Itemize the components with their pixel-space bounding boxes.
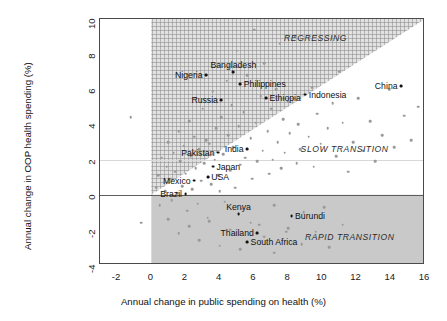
data-point bbox=[205, 139, 208, 142]
point-label: Philippines bbox=[244, 80, 286, 89]
data-point bbox=[254, 121, 257, 124]
data-point bbox=[198, 239, 201, 242]
point-label: China bbox=[375, 81, 398, 90]
data-point bbox=[208, 142, 211, 145]
data-point bbox=[208, 220, 211, 223]
point-label: South Africa bbox=[251, 238, 298, 247]
data-point-highlighted bbox=[239, 83, 242, 86]
data-point-highlighted bbox=[193, 179, 196, 182]
x-tick-label: 8 bbox=[274, 271, 300, 282]
data-point bbox=[280, 167, 283, 170]
data-point bbox=[159, 204, 162, 207]
data-point bbox=[342, 223, 345, 226]
data-point-highlighted bbox=[290, 214, 293, 217]
data-point bbox=[171, 199, 174, 202]
data-point bbox=[326, 127, 329, 130]
data-point bbox=[253, 28, 256, 31]
data-point-highlighted bbox=[265, 97, 268, 100]
data-point bbox=[277, 141, 280, 144]
point-label: Bangladesh bbox=[210, 60, 256, 69]
x-tick-label: 4 bbox=[206, 271, 232, 282]
zone-label: REGRESSING bbox=[284, 33, 347, 43]
data-point bbox=[249, 137, 252, 140]
data-point bbox=[313, 165, 316, 168]
data-point bbox=[295, 162, 298, 165]
y-tick bbox=[99, 54, 100, 55]
data-point bbox=[157, 174, 160, 177]
data-point bbox=[328, 246, 331, 249]
data-point bbox=[297, 123, 300, 126]
point-label: Kenya bbox=[226, 203, 251, 212]
data-point bbox=[338, 70, 341, 73]
data-point bbox=[273, 251, 276, 254]
y-tick-label: -4 bbox=[86, 265, 97, 287]
x-tick-label: -2 bbox=[103, 271, 129, 282]
data-point bbox=[201, 107, 204, 110]
data-point bbox=[210, 183, 213, 186]
data-point bbox=[268, 172, 271, 175]
data-point bbox=[212, 90, 215, 93]
data-point bbox=[301, 243, 304, 246]
data-point bbox=[256, 160, 259, 163]
data-point bbox=[410, 139, 413, 142]
point-label: Mexico bbox=[163, 176, 191, 185]
y-tick-label: 2 bbox=[86, 159, 97, 181]
data-point bbox=[234, 186, 237, 189]
data-point bbox=[417, 106, 420, 109]
data-point bbox=[335, 155, 338, 158]
data-point-highlighted bbox=[246, 148, 249, 151]
data-point bbox=[167, 218, 170, 221]
point-label: Brazil bbox=[160, 189, 182, 198]
data-point-highlighted bbox=[211, 165, 214, 168]
data-point bbox=[177, 130, 180, 133]
data-point bbox=[289, 132, 292, 135]
data-point bbox=[261, 149, 264, 152]
data-point bbox=[323, 206, 326, 209]
data-point bbox=[129, 116, 132, 119]
point-label: Ethiopia bbox=[269, 94, 300, 103]
data-point bbox=[193, 135, 196, 138]
data-point bbox=[227, 134, 230, 137]
point-label: Japan bbox=[216, 162, 240, 171]
y-tick-label: -2 bbox=[86, 229, 97, 251]
data-point bbox=[282, 118, 285, 121]
y-tick bbox=[99, 230, 100, 231]
data-point bbox=[242, 111, 245, 114]
data-point bbox=[188, 120, 191, 123]
y-tick bbox=[99, 195, 100, 196]
data-point bbox=[307, 135, 310, 138]
x-tick-label: 16 bbox=[411, 271, 437, 282]
data-point bbox=[278, 42, 281, 45]
data-point bbox=[172, 151, 175, 154]
data-point bbox=[177, 232, 180, 235]
x-tick-label: 6 bbox=[240, 271, 266, 282]
x-tick-label: 12 bbox=[343, 271, 369, 282]
data-point bbox=[369, 120, 372, 123]
data-point bbox=[316, 113, 319, 116]
data-point-highlighted bbox=[256, 232, 259, 235]
data-point bbox=[140, 222, 143, 225]
point-label: Thailand bbox=[221, 229, 254, 238]
data-point bbox=[206, 216, 209, 219]
data-point bbox=[259, 95, 262, 98]
zone-label: RAPID TRANSITION bbox=[305, 232, 395, 242]
data-point bbox=[167, 141, 170, 144]
data-point-highlighted bbox=[304, 93, 307, 96]
x-tick-label: 14 bbox=[377, 271, 403, 282]
y-tick bbox=[99, 124, 100, 125]
data-point bbox=[200, 179, 203, 182]
data-point bbox=[239, 248, 242, 251]
x-axis-title: Annual change in public spending on heal… bbox=[0, 296, 447, 307]
data-point bbox=[246, 74, 249, 77]
data-point bbox=[403, 114, 406, 117]
scatter-chart: Annual change in OOP health spending (%)… bbox=[0, 0, 447, 321]
data-point bbox=[381, 134, 384, 137]
data-point bbox=[191, 188, 194, 191]
data-point-highlighted bbox=[220, 98, 223, 101]
data-point-highlighted bbox=[400, 84, 403, 87]
y-tick-label: 4 bbox=[86, 124, 97, 146]
point-label: India bbox=[225, 145, 244, 154]
zone-label: SLOW TRANSITION bbox=[301, 144, 389, 154]
data-point bbox=[283, 151, 286, 154]
data-point bbox=[155, 186, 158, 189]
